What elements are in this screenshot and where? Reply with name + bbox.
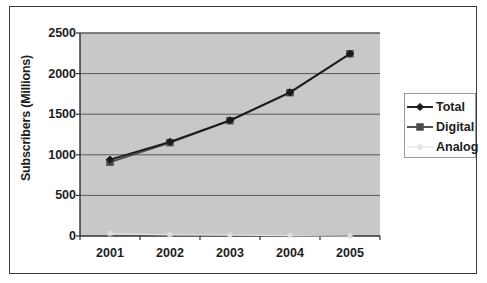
legend-label: Analog [435,140,478,154]
legend-label: Digital [435,120,474,134]
legend-label: Total [435,100,465,114]
chart-root: Subscribers (Millions) 05001000150020002… [10,7,478,275]
x-tick-label: 2002 [140,246,200,260]
x-tick-label: 2003 [200,246,260,260]
legend-item-total[interactable]: Total [405,97,477,117]
data-point-marker [417,124,423,130]
legend-marker-square-icon [405,119,435,135]
data-point-marker [347,233,354,240]
chart-legend: TotalDigitalAnalog [404,93,476,158]
data-point-marker [417,144,424,151]
x-tick-label: 2004 [260,246,320,260]
x-axis-tick-labels: 20012002200320042005 [10,246,478,268]
x-tick-label: 2005 [320,246,380,260]
x-tick-label: 2001 [80,246,140,260]
data-point-marker [287,232,294,239]
data-point-marker [227,232,234,239]
data-point-marker [416,103,423,110]
legend-item-analog[interactable]: Analog [405,137,477,157]
legend-marker-star-icon [405,139,435,155]
chart-frame: Subscribers (Millions) 05001000150020002… [9,6,477,274]
legend-marker-diamond-icon [405,99,435,115]
legend-item-digital[interactable]: Digital [405,117,477,137]
data-point-marker [167,231,174,238]
